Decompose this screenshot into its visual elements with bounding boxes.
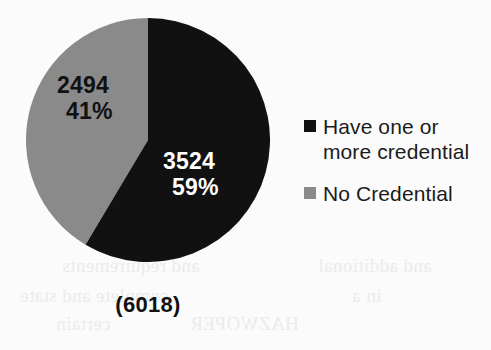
slice-value-no-credential: 2494 [57,72,109,98]
legend-label-have-credential: Have one or more credential [323,114,475,164]
pie-chart-figure: and requirements and additional complete… [0,0,491,350]
legend-item-have-credential[interactable]: Have one or more credential [304,114,484,164]
slice-value-have-credential: 3524 [163,148,215,174]
total-count-label: (6018) [0,292,296,318]
chart-legend: Have one or more credential No Credentia… [304,114,484,223]
pie-svg [26,18,270,262]
slice-label-no-credential: 2494 41% [57,72,113,124]
pie-graphic [26,18,270,262]
slice-percent-have-credential: 59% [163,174,219,200]
legend-label-no-credential: No Credential [323,181,453,206]
ghost-text: and additional [318,255,432,277]
slice-percent-no-credential: 41% [57,98,113,124]
filled-square-icon [304,187,316,199]
slice-label-have-credential: 3524 59% [163,148,219,200]
ghost-text: in a [352,285,382,307]
legend-item-no-credential[interactable]: No Credential [304,181,484,206]
filled-square-icon [304,120,316,132]
